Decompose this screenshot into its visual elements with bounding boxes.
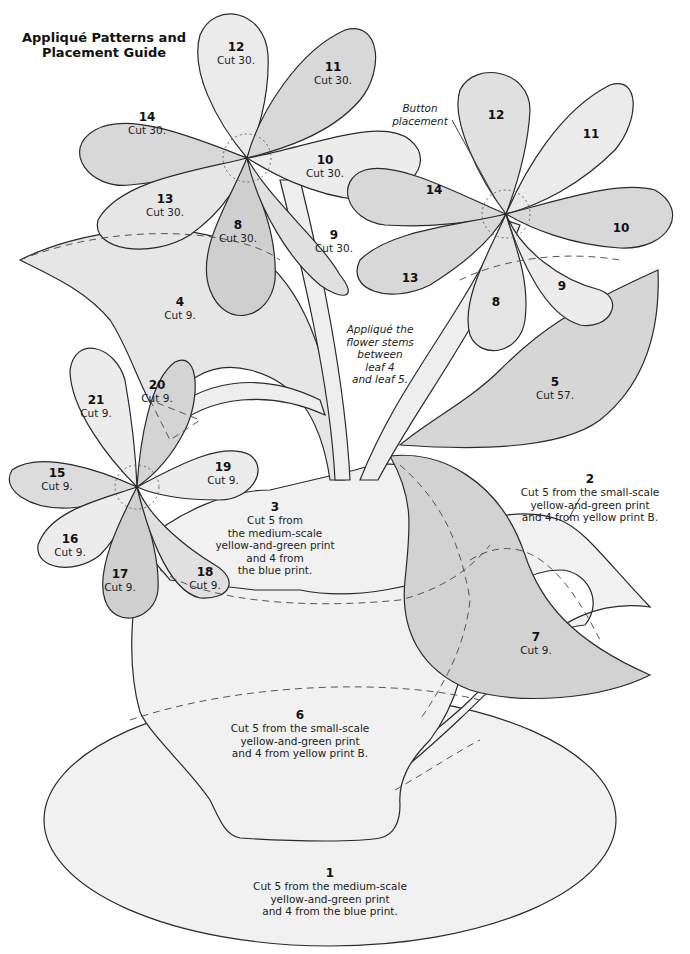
label-piece-15: 15Cut 9. xyxy=(41,466,72,493)
label-piece-16: 16Cut 9. xyxy=(54,532,85,559)
label-f2-piece-8: 8 xyxy=(492,295,500,309)
label-f2-piece-9: 9 xyxy=(558,279,566,293)
page-title: Appliqué Patterns and Placement Guide xyxy=(22,30,186,60)
label-piece-7: 7Cut 9. xyxy=(520,630,551,657)
label-piece-3: 3Cut 5 fromthe medium-scaleyellow-and-gr… xyxy=(215,500,334,577)
label-piece-11: 11Cut 30. xyxy=(314,60,352,87)
label-piece-14: 14Cut 30. xyxy=(128,110,166,137)
label-piece-21: 21Cut 9. xyxy=(80,393,111,420)
label-f2-piece-11: 11 xyxy=(583,127,600,141)
stems-note: Appliqué theflower stemsbetweenleaf 4and… xyxy=(346,323,414,386)
label-piece-20: 20Cut 9. xyxy=(141,378,172,405)
piece-4-leaf xyxy=(20,230,345,480)
label-f2-piece-12: 12 xyxy=(488,108,505,122)
button-placement-note: Buttonplacement xyxy=(392,102,448,127)
label-f2-piece-14: 14 xyxy=(426,183,443,197)
label-piece-2: 2Cut 5 from the small-scaleyellow-and-gr… xyxy=(521,472,660,524)
label-piece-1: 1Cut 5 from the medium-scaleyellow-and-g… xyxy=(253,866,407,918)
label-piece-17: 17Cut 9. xyxy=(104,567,135,594)
label-piece-13: 13Cut 30. xyxy=(146,192,184,219)
label-piece-6: 6Cut 5 from the small-scaleyellow-and-gr… xyxy=(231,708,370,760)
label-piece-8: 8Cut 30. xyxy=(219,218,257,245)
label-piece-5: 5Cut 57. xyxy=(536,375,574,402)
label-piece-9: 9Cut 30. xyxy=(315,228,353,255)
label-piece-10: 10Cut 30. xyxy=(306,153,344,180)
label-f2-piece-10: 10 xyxy=(613,221,630,235)
label-piece-12: 12Cut 30. xyxy=(217,40,255,67)
label-piece-4: 4Cut 9. xyxy=(164,295,195,322)
label-piece-19: 19Cut 9. xyxy=(207,460,238,487)
label-f2-piece-13: 13 xyxy=(402,271,419,285)
